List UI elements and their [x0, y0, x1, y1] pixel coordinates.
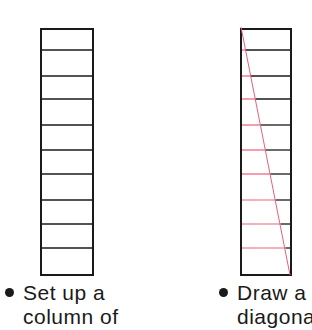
bullet-icon: [5, 288, 14, 297]
caption-left: Set up a column of: [5, 281, 119, 329]
caption-left-line1: Set up a: [23, 281, 105, 304]
caption-right-line1: Draw a: [237, 281, 307, 304]
bullet-icon: [219, 288, 228, 297]
caption-left-line2: column of: [5, 305, 119, 329]
diagonal-line: [241, 27, 290, 275]
caption-right-line2: diagonal: [219, 305, 312, 329]
column-box-left: [41, 29, 93, 275]
caption-right: Draw a diagonal: [219, 281, 312, 329]
